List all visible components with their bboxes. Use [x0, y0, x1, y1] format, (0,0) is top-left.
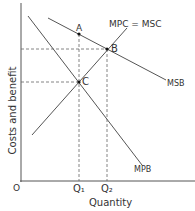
label-a: A: [76, 24, 82, 33]
tick-q1: Q₁: [73, 184, 85, 194]
tick-q2: Q₂: [101, 184, 113, 194]
label-msb: MSB: [167, 80, 184, 88]
label-mpc-msc: MPC = MSC: [109, 20, 162, 29]
label-origin: O: [13, 184, 20, 193]
point-c: [77, 80, 80, 83]
x-axis-label: Quantity: [89, 198, 132, 208]
diagram-canvas: [0, 0, 195, 211]
label-b: B: [111, 44, 118, 54]
label-c: C: [82, 77, 89, 87]
y-axis-label: Costs and benefit: [7, 61, 18, 161]
mpb-curve: [28, 16, 142, 165]
point-b: [105, 47, 108, 50]
label-mpb: MPB: [134, 166, 151, 174]
